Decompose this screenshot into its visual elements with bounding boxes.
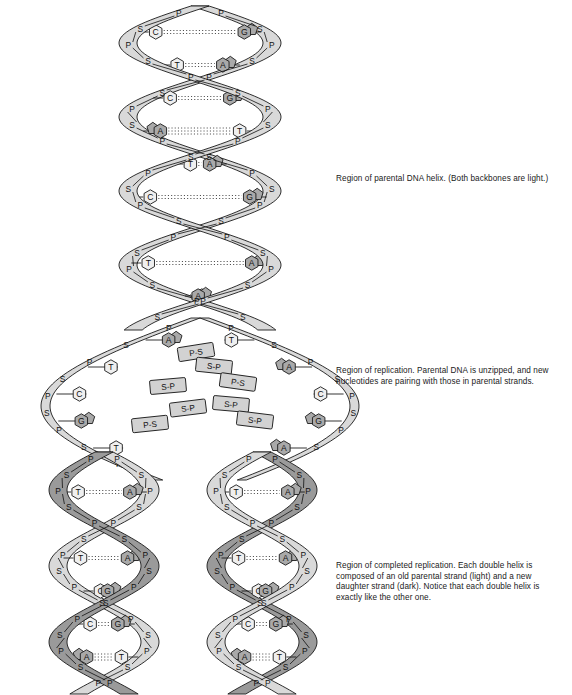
backbone-right-completed-right-sugar: S	[294, 502, 300, 512]
backbone-left-completed-right-sugar: S	[304, 566, 310, 576]
backbone-right-completed-right-sugar: S	[239, 534, 245, 544]
backbone-right-parental-phosphate: P	[249, 168, 255, 178]
base-label: C	[245, 619, 251, 629]
base-label: G	[315, 416, 322, 426]
backbone-left-completed-right-sugar: S	[222, 470, 228, 480]
base-label: T	[113, 443, 119, 453]
backbone-left-parental-phosphate: P	[145, 168, 151, 178]
backbone-right-parental-sugar: S	[150, 280, 156, 290]
backbone-right-completed-left-phosphate: P	[111, 518, 117, 528]
backbone-left-completed-left-sugar: S	[121, 534, 127, 544]
base-label: T	[146, 258, 152, 268]
base-c: C	[314, 387, 326, 401]
backbone-right-completed-right-sugar: S	[297, 470, 303, 480]
backbone-right-parental-phosphate: P	[129, 104, 135, 114]
base-t: T	[225, 333, 237, 347]
base-label: A	[84, 652, 90, 662]
backbone-left-completed-right-phosphate: P	[265, 678, 271, 688]
backbone-left-completed-left-phosphate: P	[107, 678, 113, 688]
backbone-left-completed-left-sugar: S	[146, 566, 152, 576]
backbone-right-parental-sugar: S	[249, 56, 255, 66]
backbone-left-completed-left-phosphate: P	[131, 582, 137, 592]
backbone-left-completed-left-phosphate: P	[92, 518, 98, 528]
backbone-right-completed-right-phosphate: P	[254, 678, 260, 688]
backbone-left-completed-right-sugar: S	[279, 534, 285, 544]
backbone-right-completed-left-phosphate: P	[128, 614, 134, 624]
backbone-left-completed-left-sugar: S	[78, 662, 84, 672]
backbone-right-parental-phosphate: P	[170, 232, 176, 242]
base-label: C	[167, 93, 173, 103]
base-label: G	[241, 27, 248, 37]
base-label: C	[317, 389, 323, 399]
backbone-right-completed-right-sugar: S	[214, 566, 220, 576]
backbone-parent-left-sugar: S	[123, 340, 129, 350]
backbone-right-parental-phosphate: P	[218, 8, 224, 18]
backbone-left-completed-left-phosphate: P	[75, 614, 81, 624]
backbone-right-parental-sugar: S	[206, 152, 212, 162]
caption-replication: Region of replication. Parental DNA is u…	[336, 366, 560, 387]
backbone-left-completed-left-phosphate: P	[88, 454, 94, 464]
backbone-right-completed-left-sugar: S	[99, 598, 105, 608]
backbone-right-completed-right-phosphate: P	[272, 454, 278, 464]
base-label: T	[236, 553, 242, 563]
backbone-left-completed-right-phosphate: P	[213, 486, 219, 496]
base-t: T	[72, 485, 84, 499]
backbone-right-completed-left-phosphate: P	[144, 646, 150, 656]
backbone-parent-right-sugar: S	[313, 442, 319, 452]
base-label: T	[78, 553, 84, 563]
base-label: A	[281, 443, 287, 453]
base-label: A	[283, 553, 289, 563]
backbone-right-completed-right-sugar: S	[283, 662, 289, 672]
base-label: A	[166, 335, 172, 345]
backbone-right-completed-right-sugar: S	[257, 598, 263, 608]
base-t: T	[105, 360, 117, 374]
free-nucleotide-label: S-P	[248, 415, 263, 426]
backbone-left-parental-sugar: S	[138, 24, 144, 34]
backbone-left-parental-sugar: S	[188, 152, 194, 162]
backbone-left-completed-right-sugar: S	[236, 662, 242, 672]
base-label: G	[78, 416, 85, 426]
free-nucleotide[interactable]: S-P	[212, 395, 249, 412]
backbone-parent-right-phosphate: P	[308, 357, 314, 367]
backbone-left-parental-sugar: S	[245, 280, 251, 290]
backbone-right-parental-sugar: S	[218, 216, 224, 226]
caption-completed-replication: Region of completed replication. Each do…	[336, 561, 560, 603]
base-label: T	[237, 126, 243, 136]
backbone-left-completed-right-phosphate: P	[289, 582, 295, 592]
free-nucleotide[interactable]: S-P	[149, 377, 186, 394]
backbone-left-completed-left-phosphate: P	[55, 486, 61, 496]
backbone-left-completed-left-sugar: S	[66, 502, 72, 512]
base-label: T	[119, 652, 125, 662]
backbone-right-parental-phosphate: P	[194, 296, 200, 306]
base-label: A	[242, 652, 248, 662]
backbone-left-completed-right-phosphate: P	[250, 518, 256, 528]
backbone-right-parental-sugar: S	[159, 88, 165, 98]
backbone-right-parental-sugar: S	[240, 312, 246, 322]
backbone-right-completed-right-phosphate: P	[302, 646, 308, 656]
backbone-right-completed-left-phosphate: P	[96, 678, 102, 688]
base-t: T	[74, 551, 86, 565]
backbone-right-completed-right-sugar: S	[303, 630, 309, 640]
backbone-left-parental-phosphate: P	[188, 72, 194, 82]
base-t: T	[230, 485, 242, 499]
backbone-left-parental-sugar: S	[145, 56, 151, 66]
backbone-right-completed-left-sugar: S	[136, 502, 142, 512]
backbone-left-parental-sugar: S	[176, 216, 182, 226]
backbone-right-completed-left-sugar: S	[56, 566, 62, 576]
backbone-left-completed-right-phosphate: P	[246, 454, 252, 464]
base-label: A	[220, 60, 226, 70]
free-nucleotide-label: S-P	[161, 382, 176, 392]
backbone-right-completed-left-phosphate: P	[60, 550, 66, 560]
backbone-right-parental-sugar: S	[269, 184, 275, 194]
backbone-parent-right-phosphate: P	[338, 425, 344, 435]
base-t: T	[232, 551, 244, 565]
backbone-right-completed-left-phosphate: P	[147, 486, 153, 496]
backbone-right-completed-left-phosphate: P	[72, 582, 78, 592]
base-label: A	[285, 487, 291, 497]
backbone-parent-left-phosphate: P	[166, 323, 172, 333]
backbone-left-completed-right-sugar: S	[224, 502, 230, 512]
base-label: A	[127, 487, 133, 497]
base-label: T	[229, 335, 235, 345]
backbone-left-parental-phosphate: P	[265, 104, 271, 114]
backbone-parent-right-phosphate: P	[228, 323, 234, 333]
